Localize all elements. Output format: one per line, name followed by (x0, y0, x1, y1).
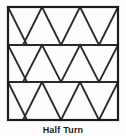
figure-container: Half Turn (0, 0, 126, 136)
triangular-lattice-diagram (0, 0, 126, 126)
diagram-background (0, 0, 126, 126)
figure-caption: Half Turn (0, 125, 126, 136)
